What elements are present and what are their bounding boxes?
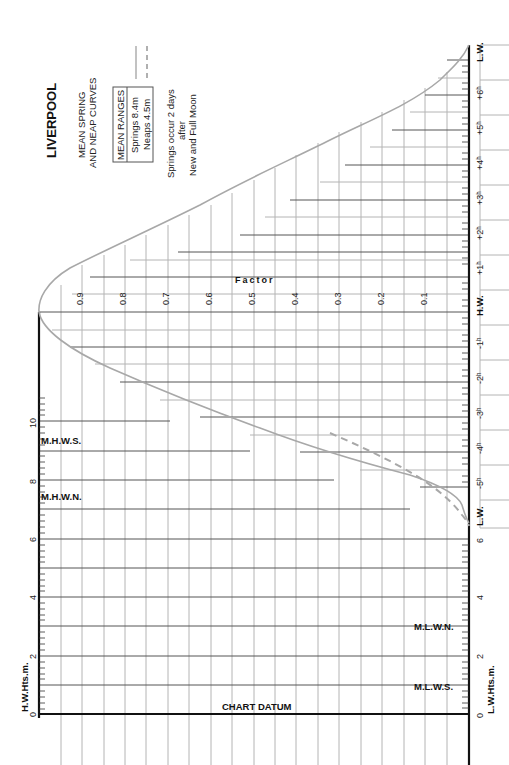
subtitle-line-1: MEAN SPRING bbox=[76, 91, 87, 158]
factor-tick: 0.1 bbox=[419, 292, 429, 305]
factor-tick: 0.9 bbox=[75, 292, 85, 305]
mhwn-label: M.H.W.N. bbox=[41, 491, 82, 502]
hour-label: +2ʰ bbox=[475, 226, 485, 240]
lw-height-tick: 6 bbox=[475, 538, 485, 543]
lw-bottom-label: L.W. bbox=[474, 506, 485, 526]
hour-label: +4ʰ bbox=[475, 156, 485, 170]
springs-range: Springs 8.4m bbox=[129, 97, 140, 153]
lw-height-tick: 0 bbox=[475, 713, 485, 718]
neaps-range: Neaps 4.5m bbox=[141, 99, 152, 150]
hw-height-tick: 8 bbox=[28, 479, 38, 484]
factor-tick: 0.2 bbox=[376, 292, 386, 305]
hw-height-labels: 10 8 6 4 2 0 H.W.Hts.m. M.H.W.S. M.H.W.N… bbox=[19, 418, 82, 717]
factor-tick: 0.3 bbox=[333, 292, 343, 305]
note-line-1: Springs occur 2 days bbox=[165, 89, 176, 178]
mean-ranges-header: MEAN RANGES bbox=[115, 90, 126, 160]
hour-label: -2ʰ bbox=[475, 372, 485, 384]
hour-label: -3ʰ bbox=[475, 407, 485, 419]
mlws-label: M.L.W.S. bbox=[414, 681, 453, 692]
hw-label: H.W. bbox=[474, 295, 485, 316]
lw-axis-title: L.W.Hts.m. bbox=[485, 665, 496, 714]
hour-label: +5ʰ bbox=[475, 121, 485, 135]
hw-height-tick: 2 bbox=[28, 654, 38, 659]
note-line-2: after bbox=[176, 121, 187, 140]
note-line-3: New and Full Moon bbox=[187, 94, 198, 176]
subtitle-line-2: AND NEAP CURVES bbox=[87, 78, 98, 168]
factor-label: Factor bbox=[235, 275, 275, 285]
tidal-curve-diagram: 0.9 0.8 0.7 0.6 0.5 0.4 0.3 0.2 0.1 Fact… bbox=[0, 0, 509, 765]
lw-height-tick: 4 bbox=[475, 595, 485, 600]
factor-tick: 0.7 bbox=[161, 292, 171, 305]
chart-datum-label: CHART DATUM bbox=[222, 701, 292, 712]
hour-label: +6ʰ bbox=[475, 86, 485, 100]
mhws-label: M.H.W.S. bbox=[41, 435, 81, 446]
hour-label: -5ʰ bbox=[475, 477, 485, 489]
factor-tick: 0.4 bbox=[290, 292, 300, 305]
factor-grid-verticals bbox=[61, 72, 447, 765]
hour-label: +1ʰ bbox=[475, 261, 485, 275]
factor-tick: 0.8 bbox=[118, 292, 128, 305]
hw-height-tick: 10 bbox=[28, 418, 38, 428]
mlwn-label: M.L.W.N. bbox=[414, 621, 454, 632]
neap-curve bbox=[330, 433, 469, 526]
hour-label: -4ʰ bbox=[475, 442, 485, 454]
hour-label: -1ʰ bbox=[475, 337, 485, 349]
hw-height-tick: 6 bbox=[28, 537, 38, 542]
hour-label: +3ʰ bbox=[475, 191, 485, 205]
title: LIVERPOOL bbox=[44, 83, 59, 158]
hw-axis-title: H.W.Hts.m. bbox=[19, 662, 30, 712]
lw-top-label: L.W. bbox=[474, 42, 485, 62]
lw-height-tick: 2 bbox=[475, 654, 485, 659]
right-outer-marks bbox=[480, 45, 509, 528]
hw-height-tick: 4 bbox=[28, 595, 38, 600]
factor-tick: 0.6 bbox=[204, 292, 214, 305]
title-block: LIVERPOOL MEAN SPRING AND NEAP CURVES ME… bbox=[44, 46, 198, 178]
lw-height-labels: 6 4 2 0 L.W.Hts.m. M.L.W.N. M.L.W.S. bbox=[414, 538, 496, 718]
factor-tick: 0.5 bbox=[247, 292, 257, 305]
